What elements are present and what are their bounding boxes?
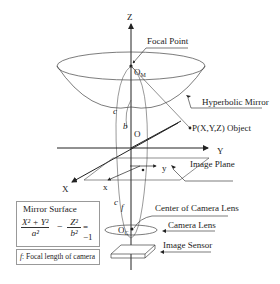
x-axis-label: X: [62, 184, 69, 194]
b-label: b: [123, 121, 128, 131]
mirror-leader-arrow: [186, 95, 191, 98]
om-label: OM: [134, 67, 147, 78]
equation-title: Mirror Surface: [23, 204, 77, 214]
mirror-surface-equation-box: Mirror Surface X² + Y² a² − Z² b² = −1: [16, 201, 100, 247]
image-sensor-label: Image Sensor: [163, 240, 212, 250]
focal-length-legend: f: Focal length of camera: [20, 252, 95, 261]
fraction-xy-numerator: X² + Y²: [21, 217, 49, 228]
hyperbola-inner: [131, 66, 147, 238]
image-x-label: x: [103, 182, 108, 192]
fraction-z-denominator: b²: [67, 228, 81, 239]
y-axis-label: Y: [217, 146, 224, 156]
image-plane-leader: [173, 169, 185, 181]
camera-lens-label: Camera Lens: [168, 220, 216, 230]
center-of-camera-lens-label: Center of Camera Lens: [155, 203, 239, 213]
equation-minus: −: [57, 221, 63, 232]
oc-label: OC: [118, 225, 129, 236]
fraction-xy: X² + Y² a²: [21, 217, 49, 239]
focal-point-leader: [133, 48, 146, 63]
origin-label: O: [134, 129, 141, 139]
object-point: [189, 127, 192, 130]
x-axis: [72, 123, 178, 182]
object-ray: [131, 66, 189, 127]
image-plane-arrow: [171, 165, 176, 169]
image-sensor-arrow: [160, 250, 164, 254]
object-label: P(X,Y,Z) Object: [192, 123, 252, 133]
fraction-xy-denominator: a²: [21, 228, 49, 239]
hyperbolic-mirror-label: Hyperbolic Mirror: [202, 97, 269, 107]
focal-length-legend-box: f: Focal length of camera: [16, 249, 100, 265]
image-sensor: [111, 245, 155, 254]
focal-length-text: : Focal length of camera: [22, 252, 95, 261]
image-x-axis: [108, 166, 140, 180]
image-plane-label: Image Plane: [190, 159, 235, 169]
equation-rhs: = −1: [83, 222, 99, 242]
focal-point-label: Focal Point: [147, 36, 189, 46]
mirror-leader: [188, 98, 191, 108]
fraction-z-numerator: Z²: [67, 217, 81, 228]
hyperbola-outer: [116, 66, 131, 238]
c-upper-label: c: [113, 106, 117, 116]
camera-lens-arrow: [162, 229, 166, 233]
fraction-z: Z² b²: [67, 217, 81, 239]
c-lower-label: c: [114, 197, 118, 207]
image-y-label: y: [162, 163, 167, 173]
image-point: [142, 169, 145, 172]
z-axis-label: Z: [127, 12, 133, 22]
camera-center-dot: [131, 228, 134, 231]
f-label: f: [121, 202, 125, 212]
